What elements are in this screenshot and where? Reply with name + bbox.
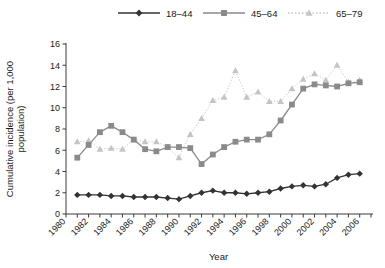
data-point [142,146,148,152]
data-series [74,62,363,160]
data-point [255,88,262,94]
legend-item[interactable]: 45–64 [203,8,277,19]
y-tick-label: 2 [55,188,60,198]
data-point [108,123,114,129]
data-point [86,142,92,148]
x-tick-label: 1980 [46,216,67,237]
legend-marker-diamond [136,10,143,17]
x-tick-label: 1986 [114,216,135,237]
data-point [232,67,239,73]
data-point [232,190,238,196]
x-tick-label: 1996 [227,216,248,237]
data-point [311,70,318,76]
data-point [131,137,137,143]
data-point [187,193,193,199]
y-tick-label: 8 [55,124,60,134]
data-point [243,94,250,100]
legend-label: 65–79 [336,8,362,19]
data-point [198,190,204,196]
data-point [266,131,272,137]
data-point [233,139,239,145]
data-point [334,84,340,90]
x-tick-label: 1984 [91,216,112,237]
chart-container: 18–4445–6465–79 024681012141619801982198… [0,0,385,268]
data-point [300,86,306,92]
legend-item[interactable]: 65–79 [288,8,362,19]
x-tick-label: 1992 [182,216,203,237]
chart-series [74,62,363,202]
data-point [74,155,80,161]
data-point [221,94,228,100]
data-point [255,190,261,196]
data-point [153,148,159,154]
legend-marker-square [221,10,227,16]
data-point [210,152,216,158]
incidence-line-chart: 18–4445–6465–79 024681012141619801982198… [0,0,385,268]
data-point [311,183,317,189]
y-tick-label: 12 [50,82,60,92]
data-point [153,194,159,200]
data-point [74,192,80,198]
data-point [97,129,103,135]
data-point [131,194,137,200]
data-point [277,185,283,191]
data-point [199,161,205,167]
data-point [120,129,126,135]
data-point [322,77,329,83]
data-point [255,137,261,143]
data-point [209,97,216,103]
data-series [74,79,362,167]
x-tick-label: 1988 [137,216,158,237]
x-tick-label: 1998 [250,216,271,237]
x-tick-label: 1990 [159,216,180,237]
data-point [210,187,216,193]
data-point [345,171,351,177]
legend-item[interactable]: 18–44 [118,8,192,19]
data-point [278,118,284,124]
data-point [300,182,306,188]
data-point [244,137,250,143]
y-axis-title-line1: Cumulative incidence (per 1,000 [4,61,15,197]
data-point [153,138,160,144]
data-point [142,194,148,200]
series-line [77,65,359,157]
data-point [108,145,115,151]
data-point [334,62,341,68]
data-point [300,76,307,82]
y-tick-label: 10 [50,103,60,113]
data-point [221,190,227,196]
x-tick-label: 1982 [69,216,90,237]
series-line [77,82,359,164]
data-series [74,170,363,202]
data-point [176,196,182,202]
data-point [266,188,272,194]
data-point [221,144,227,150]
data-point [289,102,295,108]
chart-legend: 18–4445–6465–79 [118,8,362,19]
y-tick-label: 14 [50,61,60,71]
legend-label: 45–64 [251,8,277,19]
data-point [289,183,295,189]
x-tick-label: 2004 [317,216,338,237]
data-point [108,193,114,199]
data-point [85,192,91,198]
data-point [164,195,170,201]
x-tick-label: 2000 [272,216,293,237]
data-point [244,191,250,197]
x-tick-label: 1994 [204,216,225,237]
x-tick-label: 2006 [340,216,361,237]
data-point [176,144,182,150]
x-tick-label: 2002 [295,216,316,237]
data-point [97,192,103,198]
data-point [187,145,193,151]
data-point [74,138,81,144]
legend-label: 18–44 [166,8,192,19]
data-point [198,115,205,121]
y-tick-label: 16 [50,39,60,49]
data-point [312,81,318,87]
x-axis-title: Year [209,251,228,262]
y-tick-label: 6 [55,146,60,156]
data-point [165,144,171,150]
data-point [187,131,194,137]
data-point [323,83,329,89]
